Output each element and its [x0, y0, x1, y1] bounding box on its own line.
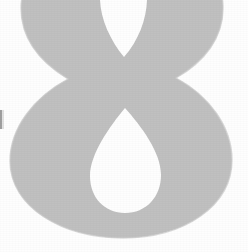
numeral-eight-shape — [10, 0, 232, 238]
scan-edge-sliver-halo — [2, 110, 4, 129]
numeral-glyph-layer — [0, 0, 248, 252]
page-canvas: 8 Large light gray numeral rendered very… — [0, 0, 248, 252]
